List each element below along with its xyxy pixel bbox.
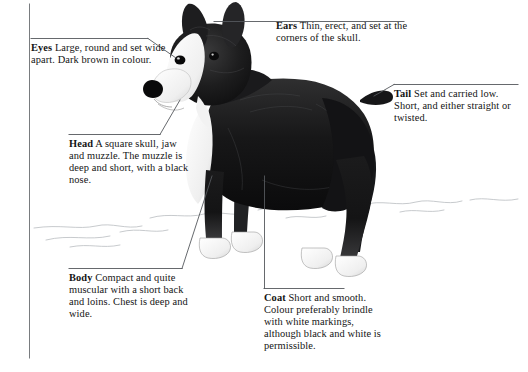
callout-head-keyword: Head xyxy=(69,138,93,149)
callout-coat-keyword: Coat xyxy=(264,292,286,303)
callout-eyes: Eyes Large, round and set wide apart. Da… xyxy=(31,42,167,66)
callout-body: Body Compact and quite muscular with a s… xyxy=(69,272,195,320)
callout-body-keyword: Body xyxy=(69,272,93,283)
breed-diagram: Eyes Large, round and set wide apart. Da… xyxy=(0,0,528,372)
callout-tail-keyword: Tail xyxy=(394,88,411,99)
callout-head: Head A square skull, jaw and muzzle. The… xyxy=(69,138,193,186)
leader-head xyxy=(69,100,180,135)
callout-eyes-text: Large, round and set wide apart. Dark br… xyxy=(31,42,165,65)
callout-ears: Ears Thin, erect, and set at the corners… xyxy=(276,20,410,44)
callout-coat: Coat Short and smooth. Colour preferably… xyxy=(264,292,390,352)
leader-body xyxy=(69,176,212,269)
callout-tail: Tail Set and carried low. Short, and eit… xyxy=(394,88,524,124)
leader-coat xyxy=(264,176,344,289)
callout-eyes-keyword: Eyes xyxy=(31,42,52,53)
callout-tail-text: Set and carried low. Short, and either s… xyxy=(394,88,511,123)
callout-ears-keyword: Ears xyxy=(276,20,297,31)
